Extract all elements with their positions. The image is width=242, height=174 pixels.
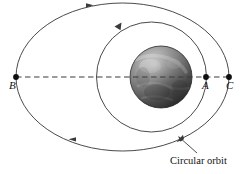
point-label-b: B [9,80,16,91]
point-label-c: C [226,80,233,91]
point-label-a: A [202,80,209,91]
orbit-diagram-figure: B A C Circular orbit [0,0,242,174]
circular-orbit-caption: Circular orbit [170,156,227,167]
direction-arrow-marker [115,23,122,31]
direction-arrow-marker [69,137,77,141]
